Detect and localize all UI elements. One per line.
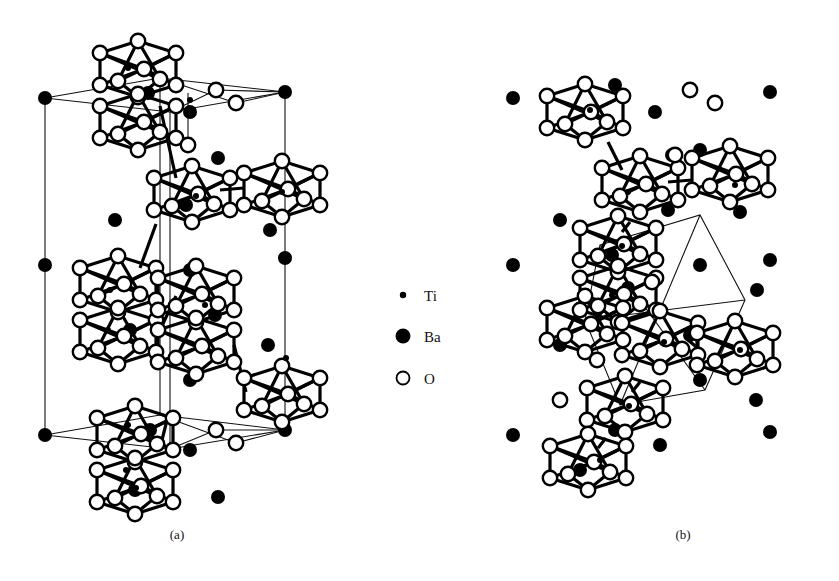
crystal-structure-figure: Ti Ba O [0,0,839,581]
legend-label-ba: Ba [424,329,441,345]
panel-b-caption: (b) [658,527,708,543]
panel-a-caption: (a) [152,527,202,543]
legend-label-ti: Ti [424,288,437,304]
o-marker-icon [397,372,410,385]
legend-label-o: O [424,371,435,387]
structure-canvas: Ti Ba O [0,0,839,581]
ti-marker-icon [400,292,406,298]
ba-marker-icon [396,329,411,344]
